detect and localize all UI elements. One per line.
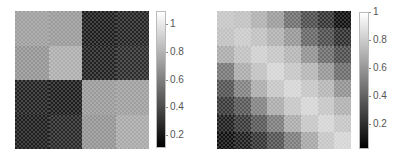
colorbar-tick-label: 0.4 bbox=[373, 91, 387, 101]
heatmap-cell bbox=[318, 80, 335, 97]
heatmap-cell bbox=[334, 80, 351, 97]
heatmap-cell bbox=[318, 11, 335, 28]
heatmap-cell bbox=[234, 11, 251, 28]
heatmap-cell bbox=[318, 132, 335, 149]
heatmap-cell bbox=[234, 97, 251, 114]
heatmap-cell bbox=[284, 46, 301, 63]
heatmap-cell bbox=[217, 115, 234, 132]
heatmap-cell bbox=[15, 46, 49, 81]
heatmap-cell bbox=[251, 132, 268, 149]
heatmap-cell bbox=[334, 63, 351, 80]
heatmap-cell bbox=[251, 46, 268, 63]
heatmap-cell bbox=[284, 115, 301, 132]
heatmap-cell bbox=[217, 28, 234, 45]
heatmap-cell bbox=[82, 46, 116, 81]
heatmap-cell bbox=[318, 63, 335, 80]
heatmap-cell bbox=[234, 115, 251, 132]
colorbar-tick-mark bbox=[369, 96, 371, 97]
colorbar-tick-label: 0.8 bbox=[170, 47, 184, 57]
heatmap-cell bbox=[251, 115, 268, 132]
heatmap-cell bbox=[251, 63, 268, 80]
heatmap-cell bbox=[49, 11, 83, 46]
heatmap-cell bbox=[251, 28, 268, 45]
heatmap-cell bbox=[49, 80, 83, 115]
colorbar-tick-mark bbox=[166, 52, 168, 53]
heatmap-cell bbox=[251, 11, 268, 28]
heatmap-cell bbox=[334, 132, 351, 149]
heatmap-cell bbox=[15, 115, 49, 150]
heatmap-cell bbox=[301, 97, 318, 114]
colorbar-tick-mark bbox=[166, 80, 168, 81]
colorbar-tick-label: 0.2 bbox=[170, 130, 184, 140]
left-colorbar bbox=[156, 11, 166, 148]
heatmap-cell bbox=[49, 115, 83, 150]
right-heatmap bbox=[217, 11, 351, 149]
heatmap-cell bbox=[217, 11, 234, 28]
heatmap-cell bbox=[334, 28, 351, 45]
right-colorbar bbox=[359, 12, 369, 149]
heatmap-cell bbox=[334, 46, 351, 63]
heatmap-cell bbox=[284, 63, 301, 80]
heatmap-cell bbox=[334, 11, 351, 28]
heatmap-cell bbox=[116, 46, 150, 81]
heatmap-cell bbox=[301, 63, 318, 80]
heatmap-cell bbox=[284, 132, 301, 149]
heatmap-cell bbox=[267, 46, 284, 63]
heatmap-cell bbox=[217, 46, 234, 63]
heatmap-cell bbox=[318, 97, 335, 114]
heatmap-cell bbox=[217, 97, 234, 114]
heatmap-cell bbox=[234, 132, 251, 149]
colorbar-tick-label: 0.6 bbox=[170, 75, 184, 85]
colorbar-tick-label: 0.6 bbox=[373, 63, 387, 73]
heatmap-cell bbox=[217, 63, 234, 80]
heatmap-cell bbox=[251, 80, 268, 97]
heatmap-cell bbox=[301, 80, 318, 97]
colorbar-tick-label: 1 bbox=[170, 19, 176, 29]
colorbar-tick-label: 0.4 bbox=[170, 102, 184, 112]
colorbar-tick-mark bbox=[166, 135, 168, 136]
heatmap-cell bbox=[334, 97, 351, 114]
heatmap-cell bbox=[301, 132, 318, 149]
heatmap-cell bbox=[318, 115, 335, 132]
colorbar-tick-label: 1 bbox=[373, 7, 379, 17]
heatmap-cell bbox=[267, 11, 284, 28]
heatmap-cell bbox=[284, 97, 301, 114]
heatmap-cell bbox=[318, 28, 335, 45]
colorbar-tick-label: 0.8 bbox=[373, 35, 387, 45]
heatmap-cell bbox=[15, 11, 49, 46]
heatmap-cell bbox=[217, 80, 234, 97]
heatmap-cell bbox=[301, 28, 318, 45]
heatmap-cell bbox=[318, 46, 335, 63]
colorbar-tick-mark bbox=[369, 12, 371, 13]
heatmap-cell bbox=[334, 115, 351, 132]
heatmap-cell bbox=[267, 28, 284, 45]
heatmap-cell bbox=[49, 46, 83, 81]
colorbar-tick-label: 0.2 bbox=[373, 119, 387, 129]
heatmap-cell bbox=[301, 115, 318, 132]
heatmap-cell bbox=[267, 115, 284, 132]
heatmap-cell bbox=[82, 11, 116, 46]
colorbar-tick-mark bbox=[369, 124, 371, 125]
heatmap-cell bbox=[267, 97, 284, 114]
heatmap-cell bbox=[116, 80, 150, 115]
heatmap-cell bbox=[267, 132, 284, 149]
heatmap-cell bbox=[116, 11, 150, 46]
colorbar-tick-mark bbox=[166, 24, 168, 25]
heatmap-cell bbox=[234, 28, 251, 45]
left-heatmap bbox=[15, 11, 149, 149]
heatmap-cell bbox=[267, 63, 284, 80]
heatmap-cell bbox=[284, 80, 301, 97]
heatmap-cell bbox=[82, 115, 116, 150]
heatmap-cell bbox=[116, 115, 150, 150]
colorbar-tick-mark bbox=[369, 40, 371, 41]
heatmap-cell bbox=[301, 46, 318, 63]
colorbar-tick-mark bbox=[369, 68, 371, 69]
heatmap-cell bbox=[82, 80, 116, 115]
colorbar-tick-mark bbox=[166, 107, 168, 108]
heatmap-cell bbox=[301, 11, 318, 28]
heatmap-cell bbox=[234, 46, 251, 63]
heatmap-cell bbox=[251, 97, 268, 114]
heatmap-cell bbox=[267, 80, 284, 97]
heatmap-cell bbox=[284, 11, 301, 28]
heatmap-cell bbox=[234, 63, 251, 80]
